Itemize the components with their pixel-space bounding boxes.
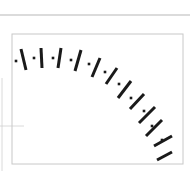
minor-tick-dot bbox=[130, 97, 133, 100]
minor-tick-dot bbox=[151, 125, 154, 128]
major-tick bbox=[154, 136, 172, 146]
minor-tick-dot bbox=[70, 59, 73, 62]
major-tick bbox=[146, 120, 162, 136]
minor-tick-dot bbox=[118, 83, 121, 86]
major-tick bbox=[75, 50, 81, 71]
minor-tick-dot bbox=[15, 60, 18, 63]
minor-tick-dot bbox=[104, 71, 107, 74]
major-tick bbox=[21, 49, 26, 70]
minor-tick-dot bbox=[143, 110, 146, 113]
major-tick bbox=[139, 107, 155, 123]
minor-tick-dot bbox=[33, 57, 36, 60]
gauge-diagram bbox=[0, 0, 190, 171]
major-tick bbox=[92, 58, 100, 77]
major-tick bbox=[58, 48, 61, 68]
guide-lines bbox=[0, 15, 190, 171]
major-tick bbox=[157, 152, 172, 160]
major-tick bbox=[130, 94, 144, 109]
major-tick bbox=[41, 48, 42, 68]
minor-tick-dot bbox=[88, 63, 91, 66]
minor-tick-dot bbox=[52, 57, 55, 60]
major-tick bbox=[106, 68, 117, 84]
major-tick-marks bbox=[21, 48, 172, 160]
